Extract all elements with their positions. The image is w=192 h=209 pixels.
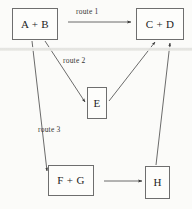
reaction-route-diagram: A + B C + D E F + G H route 1 route 2 ro…: [0, 0, 192, 209]
edge-h-to-cd-line: [156, 43, 170, 165]
node-c-plus-d: C + D: [136, 8, 184, 40]
node-c-plus-d-label: C + D: [146, 19, 174, 30]
node-f-plus-g: F + G: [48, 165, 94, 196]
node-e-label: E: [93, 98, 100, 109]
edge-e-to-cd-line: [109, 42, 155, 101]
node-a-plus-b: A + B: [12, 8, 58, 40]
edge-label-route-3: route 3: [38, 125, 60, 134]
node-h: H: [145, 166, 170, 199]
node-a-plus-b-label: A + B: [21, 19, 49, 30]
edge-label-route-1: route 1: [76, 7, 98, 16]
edge-route-2-line: [45, 41, 85, 102]
node-f-plus-g-label: F + G: [57, 175, 84, 186]
edge-label-route-2: route 2: [63, 56, 85, 65]
node-h-label: H: [153, 177, 161, 188]
node-e: E: [87, 87, 107, 119]
edge-route-3-line: [32, 41, 47, 171]
